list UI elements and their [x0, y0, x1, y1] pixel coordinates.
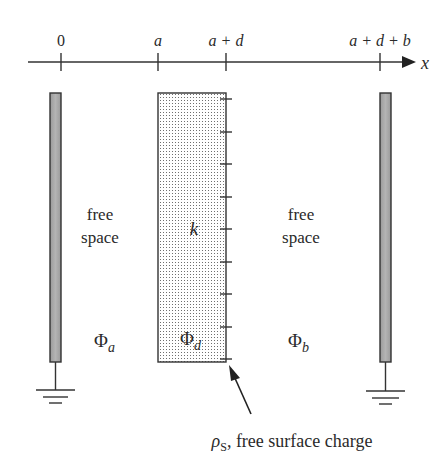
- right-plate: [366, 93, 405, 404]
- left-plate: [36, 93, 75, 403]
- x-axis: x 0 a a + d a + d + b: [28, 32, 429, 73]
- right-region-label-line1: free: [288, 205, 314, 224]
- tick-label-a: a: [154, 32, 162, 49]
- ground-icon: [36, 362, 75, 403]
- potential-b-label: Φb: [288, 330, 309, 355]
- left-region-label-line2: space: [81, 228, 119, 247]
- axis-tick-0: 0: [57, 32, 65, 71]
- ground-icon: [366, 362, 405, 404]
- potential-a-label: Φa: [94, 330, 115, 355]
- tick-label-0: 0: [57, 32, 65, 49]
- axis-tick-a-plus-d: a + d: [209, 32, 245, 71]
- dielectric-slab: k Φd: [158, 93, 232, 362]
- surface-charge-annotation: ρS, free surface charge: [211, 365, 373, 454]
- tick-label-a-plus-d-plus-b: a + d + b: [349, 32, 411, 49]
- right-free-space-region: free space Φb: [282, 205, 320, 355]
- dielectric-constant-label: k: [190, 218, 199, 239]
- tick-label-a-plus-d: a + d: [209, 32, 245, 49]
- axis-arrow-icon: [402, 56, 416, 68]
- surface-charge-label: ρS, free surface charge: [211, 431, 373, 454]
- capacitor-diagram: x 0 a a + d a + d + b: [0, 0, 448, 461]
- axis-tick-a: a: [154, 32, 162, 71]
- left-region-label-line1: free: [87, 205, 113, 224]
- left-free-space-region: free space Φa: [81, 205, 119, 355]
- right-region-label-line2: space: [282, 228, 320, 247]
- annotation-arrow-icon: [229, 365, 240, 381]
- axis-tick-a-plus-d-plus-b: a + d + b: [349, 32, 411, 71]
- axis-variable-label: x: [420, 53, 429, 73]
